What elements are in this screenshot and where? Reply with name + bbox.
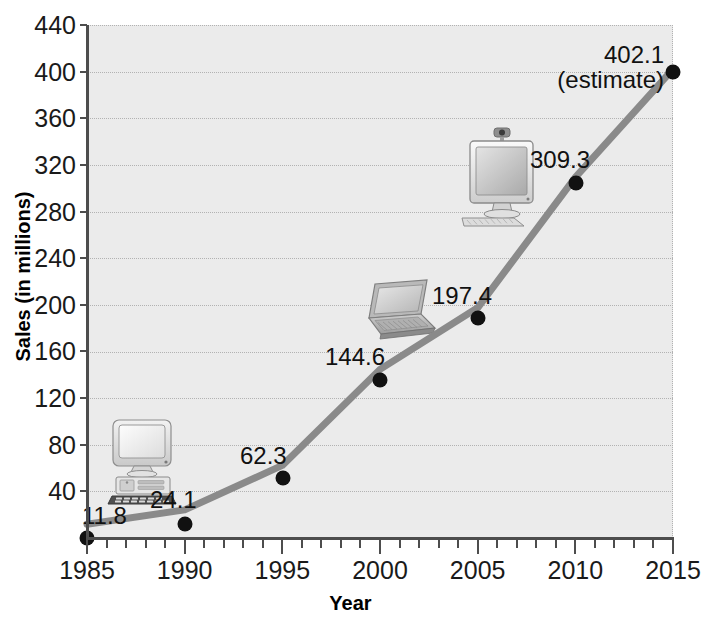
x-tick-minor-1996 — [301, 540, 303, 548]
x-tick-minor-2014 — [652, 540, 654, 548]
x-tick-label-2000: 2000 — [352, 558, 408, 583]
y-tick-mark-360 — [80, 117, 87, 119]
line-chart: 11.8 24.1 62.3 144.6 197.4 309.3 402.1 (… — [0, 0, 701, 628]
y-tick-mark-400 — [80, 71, 87, 73]
y-tick-mark-440 — [80, 24, 87, 26]
data-label-2005: 197.4 — [432, 283, 492, 308]
y-tick-mark-40 — [80, 490, 87, 492]
x-tick-minor-2013 — [633, 540, 635, 548]
x-tick-label-2005: 2005 — [450, 558, 506, 583]
y-tick-mark-80 — [80, 444, 87, 446]
x-tick-minor-2008 — [535, 540, 537, 548]
data-point-1990 — [178, 517, 193, 532]
y-tick-mark-240 — [80, 257, 87, 259]
x-tick-label-2015: 2015 — [645, 558, 701, 583]
data-label-2010: 309.3 — [530, 147, 590, 172]
x-tick-minor-2006 — [496, 540, 498, 548]
x-tick-major-2010 — [574, 540, 576, 554]
y-tick-label-360: 360 — [4, 106, 76, 131]
data-label-2015-estimate-note: (estimate) — [552, 67, 664, 92]
x-axis-title: Year — [0, 592, 701, 615]
data-point-2015 — [666, 65, 681, 80]
y-tick-label-40: 40 — [4, 479, 76, 504]
x-tick-minor-1991 — [203, 540, 205, 548]
x-tick-major-2000 — [379, 540, 381, 554]
x-tick-minor-1994 — [262, 540, 264, 548]
x-tick-label-1985: 1985 — [59, 558, 115, 583]
data-label-2015: 402.1 (estimate) — [552, 42, 664, 92]
x-tick-minor-2003 — [438, 540, 440, 548]
x-tick-minor-1988 — [145, 540, 147, 548]
x-tick-minor-1997 — [320, 540, 322, 548]
x-tick-minor-2011 — [594, 540, 596, 548]
x-tick-minor-2001 — [399, 540, 401, 548]
y-tick-mark-160 — [80, 350, 87, 352]
y-tick-label-400: 400 — [4, 59, 76, 84]
x-tick-minor-1999 — [359, 540, 361, 548]
x-tick-minor-2007 — [516, 540, 518, 548]
data-point-2010 — [569, 176, 584, 191]
y-tick-mark-200 — [80, 304, 87, 306]
x-tick-major-1995 — [281, 540, 283, 554]
x-tick-label-1990: 1990 — [157, 558, 213, 583]
y-tick-mark-320 — [80, 164, 87, 166]
x-tick-minor-1986 — [106, 540, 108, 548]
x-tick-label-2010: 2010 — [548, 558, 604, 583]
y-axis-line — [86, 25, 89, 539]
y-tick-mark-280 — [80, 211, 87, 213]
data-label-2015-value: 402.1 — [604, 41, 664, 68]
x-tick-major-2015 — [672, 540, 674, 554]
x-tick-major-2005 — [477, 540, 479, 554]
data-series-line — [0, 0, 701, 628]
x-tick-major-1985 — [86, 540, 88, 554]
x-tick-label-1995: 1995 — [255, 558, 311, 583]
x-tick-minor-1993 — [242, 540, 244, 548]
x-tick-minor-1989 — [164, 540, 166, 548]
data-point-2005 — [471, 311, 486, 326]
y-tick-mark-120 — [80, 397, 87, 399]
x-tick-minor-2012 — [613, 540, 615, 548]
x-tick-minor-1998 — [340, 540, 342, 548]
data-label-1990: 24.1 — [150, 487, 197, 512]
x-tick-minor-2002 — [418, 540, 420, 548]
data-point-1995 — [276, 471, 291, 486]
x-tick-minor-2004 — [457, 540, 459, 548]
x-tick-major-1990 — [184, 540, 186, 554]
data-label-1995: 62.3 — [240, 443, 287, 468]
y-tick-label-440: 440 — [4, 13, 76, 38]
y-tick-label-80: 80 — [4, 432, 76, 457]
y-axis-title: Sales (in millions) — [12, 162, 35, 392]
data-point-2000 — [373, 373, 388, 388]
data-label-2000: 144.6 — [325, 344, 385, 369]
x-tick-minor-1992 — [223, 540, 225, 548]
x-tick-minor-1987 — [125, 540, 127, 548]
x-tick-minor-2009 — [555, 540, 557, 548]
